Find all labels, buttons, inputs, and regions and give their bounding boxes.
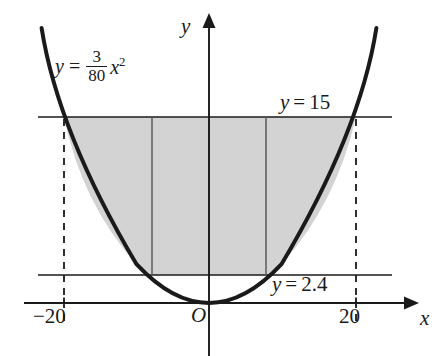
x-axis-label: x <box>420 308 429 329</box>
x-axis-arrowhead <box>404 297 419 310</box>
label-y15-equals: = <box>293 90 305 114</box>
curve-equation-label: y = 3 80 x2 <box>55 48 125 85</box>
label-y15-value: 15 <box>309 90 330 114</box>
curve-eq-exponent: 2 <box>119 55 125 69</box>
curve-eq-variable-power: x2 <box>110 56 125 77</box>
label-line-y-15: y=15 <box>280 92 330 113</box>
x-tick-label-neg20: −20 <box>33 306 66 327</box>
label-y24-lhs: y <box>272 272 281 296</box>
label-y15-lhs: y <box>280 90 289 114</box>
parabola-figure: y = 3 80 x2 y=15 y=2.4 y x O −20 20 <box>0 0 441 356</box>
label-line-y-2point4: y=2.4 <box>272 274 327 295</box>
origin-label: O <box>191 305 206 326</box>
y-axis-arrowhead <box>203 13 216 28</box>
curve-eq-fraction: 3 80 <box>86 48 107 85</box>
x-tick-label-pos20: 20 <box>339 306 360 327</box>
curve-eq-numerator: 3 <box>90 48 103 66</box>
shaded-region <box>0 117 441 275</box>
curve-eq-variable: x <box>110 56 119 78</box>
shaded-band <box>0 117 441 275</box>
curve-eq-denominator: 80 <box>86 66 107 85</box>
label-y24-value: 2.4 <box>301 272 327 296</box>
label-y24-equals: = <box>285 272 297 296</box>
y-axis-label: y <box>181 16 190 37</box>
curve-eq-lhs: y <box>55 56 64 76</box>
curve-eq-equals: = <box>69 56 80 76</box>
